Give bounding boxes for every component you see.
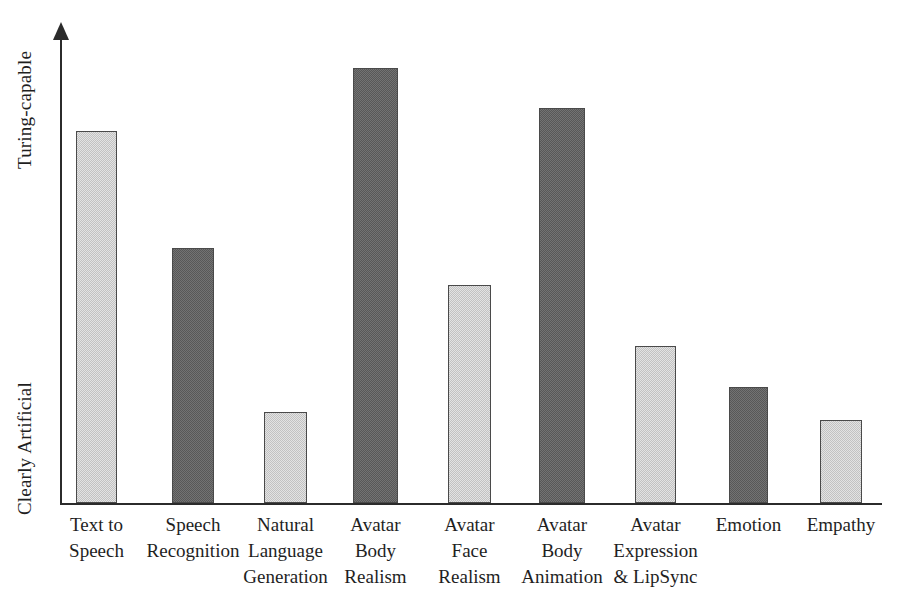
bar [539, 108, 585, 503]
bar [76, 131, 117, 503]
bar [172, 248, 214, 503]
bar [264, 412, 307, 503]
x-axis-line [60, 503, 882, 505]
bar [353, 68, 398, 503]
y-axis-high-label: Turing-capable [15, 51, 34, 169]
y-axis-line [60, 36, 62, 505]
y-axis-low-label: Clearly Artificial [15, 382, 34, 515]
category-label: Text to Speech [42, 512, 152, 564]
bar [729, 387, 768, 503]
bar [635, 346, 676, 503]
bar [820, 420, 862, 503]
bar [448, 285, 491, 503]
category-label: Empathy [786, 512, 896, 538]
bar-chart: Turing-capable Clearly Artificial Text t… [0, 0, 908, 600]
